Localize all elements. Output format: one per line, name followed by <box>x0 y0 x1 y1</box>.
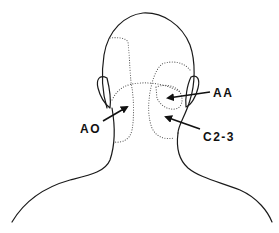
c23-referral-zone <box>149 62 190 139</box>
label-aa: AA <box>213 86 233 100</box>
ao-arrow <box>103 107 127 121</box>
right-neck-shoulder <box>177 133 272 222</box>
label-c23: C2-3 <box>203 130 235 144</box>
label-ao: AO <box>80 122 101 136</box>
head-outline <box>103 13 195 133</box>
aa-arrow <box>168 92 210 98</box>
head-neck-diagram: AA AO C2-3 <box>0 0 279 233</box>
